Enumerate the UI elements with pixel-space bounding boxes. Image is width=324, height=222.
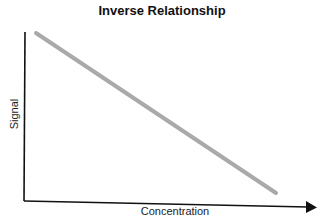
- y-axis: [24, 32, 25, 201]
- x-axis-arrowhead-icon: [306, 201, 317, 213]
- chart-plot: [0, 0, 324, 222]
- x-axis-label: Concentration: [110, 205, 240, 217]
- inverse-trend-line: [36, 33, 276, 193]
- y-axis-label: Signal: [8, 94, 20, 134]
